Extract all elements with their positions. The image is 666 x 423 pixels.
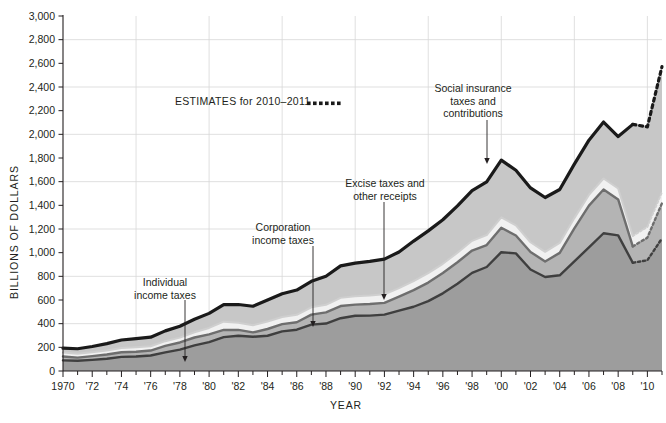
legend-dot <box>313 102 317 106</box>
x-tick-label: '90 <box>348 380 362 392</box>
x-tick-label: '84 <box>261 380 275 392</box>
y-tick-label: 3,000 <box>29 10 55 22</box>
x-tick-label: '86 <box>290 380 304 392</box>
y-tick-label: 2,800 <box>29 33 55 45</box>
legend-dot <box>325 102 329 106</box>
annotation-label: Corporationincome taxes <box>252 221 314 246</box>
x-tick-label: '00 <box>494 380 508 392</box>
legend-dot <box>337 102 341 106</box>
legend-label: ESTIMATES for 2010–2011 <box>175 95 311 107</box>
x-axis-title: YEAR <box>330 399 362 411</box>
x-tick-label: '98 <box>465 380 479 392</box>
x-tick-label: '96 <box>436 380 450 392</box>
y-tick-label: 2,200 <box>29 104 55 116</box>
x-tick-label: '94 <box>407 380 421 392</box>
annotation-label: Excise taxes andother receipts <box>345 177 425 202</box>
x-tick-label: '76 <box>144 380 158 392</box>
y-tick-label: 0 <box>49 365 55 377</box>
legend-dot <box>319 102 323 106</box>
x-tick-label: '74 <box>115 380 129 392</box>
y-tick-label: 1,000 <box>29 246 55 258</box>
x-tick-label: '10 <box>641 380 655 392</box>
y-tick-label: 2,400 <box>29 81 55 93</box>
x-tick-label: '82 <box>231 380 245 392</box>
chart-canvas: 02004006008001,0001,2001,4001,6001,8002,… <box>0 0 666 423</box>
y-tick-label: 1,600 <box>29 175 55 187</box>
x-tick-label: '08 <box>611 380 625 392</box>
x-tick-label: '92 <box>378 380 392 392</box>
x-tick-label: '80 <box>202 380 216 392</box>
y-tick-label: 1,800 <box>29 152 55 164</box>
y-tick-label: 2,600 <box>29 57 55 69</box>
receipts-area-chart: 02004006008001,0001,2001,4001,6001,8002,… <box>0 0 666 423</box>
y-axis-title: BILLIONS OF DOLLARS <box>8 165 20 299</box>
x-tick-label: '06 <box>582 380 596 392</box>
y-tick-label: 400 <box>37 317 55 329</box>
x-tick-label: '72 <box>85 380 99 392</box>
y-tick-label: 1,400 <box>29 199 55 211</box>
y-tick-label: 600 <box>37 294 55 306</box>
annotation-label: Individualincome taxes <box>134 276 196 301</box>
y-tick-label: 800 <box>37 270 55 282</box>
x-tick-label: '78 <box>173 380 187 392</box>
legend-dot <box>307 102 311 106</box>
x-tick-label: 1970 <box>51 380 75 392</box>
y-tick-label: 200 <box>37 341 55 353</box>
y-tick-label: 1,200 <box>29 223 55 235</box>
y-tick-label: 2,000 <box>29 128 55 140</box>
x-tick-label: '04 <box>553 380 567 392</box>
x-tick-label: '88 <box>319 380 333 392</box>
x-tick-label: '02 <box>524 380 538 392</box>
legend-dot <box>331 102 335 106</box>
